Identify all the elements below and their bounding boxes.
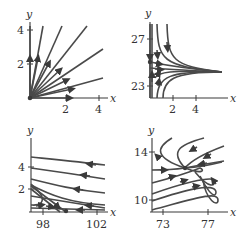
- x-tick-4: 4: [192, 103, 199, 116]
- x-tick-2: 2: [62, 103, 69, 116]
- x-tick-98: 98: [36, 218, 50, 231]
- y-axis-label: y: [144, 7, 152, 20]
- y-tick-4: 4: [17, 24, 24, 37]
- y-tick-14: 14: [134, 146, 148, 159]
- x-axis-label: x: [110, 206, 117, 219]
- x-axis-label: x: [230, 92, 237, 105]
- trajectories: [28, 26, 103, 100]
- x-axis-label: x: [230, 206, 237, 219]
- x-tick-2: 2: [169, 103, 176, 116]
- x-tick-73: 73: [156, 218, 170, 231]
- panel-top-right: y x 27 23 2 4: [131, 7, 237, 116]
- x-tick-77: 77: [201, 218, 215, 231]
- trajectories: [148, 24, 222, 98]
- panel-top-left: y x 4 2 2 4: [17, 8, 117, 116]
- x-tick-102: 102: [86, 218, 107, 231]
- y-tick-27: 27: [131, 33, 145, 46]
- y-axis-label: y: [26, 124, 34, 137]
- phase-portraits-figure: y x 4 2 2 4 y x: [0, 0, 247, 237]
- y-axis-label: y: [25, 8, 33, 21]
- y-tick-10: 10: [134, 194, 148, 207]
- trajectories: [31, 157, 105, 213]
- trajectories: [152, 138, 224, 210]
- panel-bottom-right: y x 14 10 73 77: [134, 124, 237, 231]
- x-axis-label: x: [110, 92, 117, 105]
- y-tick-4: 4: [18, 161, 25, 174]
- y-tick-2: 2: [18, 183, 25, 196]
- y-tick-23: 23: [131, 80, 145, 93]
- y-tick-2: 2: [17, 58, 24, 71]
- x-tick-4: 4: [95, 103, 102, 116]
- y-axis-label: y: [147, 124, 155, 137]
- panel-bottom-left: y x 4 2 98 102: [18, 124, 117, 231]
